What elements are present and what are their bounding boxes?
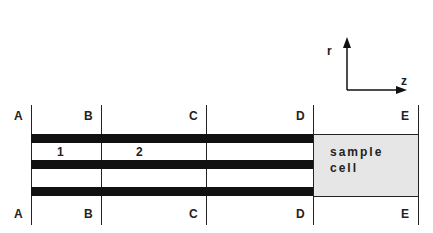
region-label-1: 1 — [57, 146, 64, 158]
axis-label-z: z — [401, 75, 407, 87]
section-label-a-bottom: A — [14, 208, 23, 220]
section-label-b-bottom: B — [84, 208, 93, 220]
electrode-bar-top — [31, 134, 313, 143]
region-label-2: 2 — [136, 146, 143, 158]
section-label-d-top: D — [296, 110, 305, 122]
section-label-c-bottom: C — [189, 208, 198, 220]
section-label-c-top: C — [189, 110, 198, 122]
sample-cell: sample cell — [313, 134, 419, 197]
section-label-e-top: E — [401, 110, 409, 122]
sample-cell-label-line2: cell — [330, 161, 358, 176]
electrode-bar-bottom — [31, 187, 313, 196]
section-label-a-top: A — [14, 110, 23, 122]
electrode-bar-middle — [31, 160, 313, 169]
sample-cell-label-line1: sample — [330, 145, 383, 160]
section-label-e-bottom: E — [401, 208, 409, 220]
section-label-b-top: B — [84, 110, 93, 122]
section-label-d-bottom: D — [296, 208, 305, 220]
axis-label-r: r — [327, 45, 332, 57]
